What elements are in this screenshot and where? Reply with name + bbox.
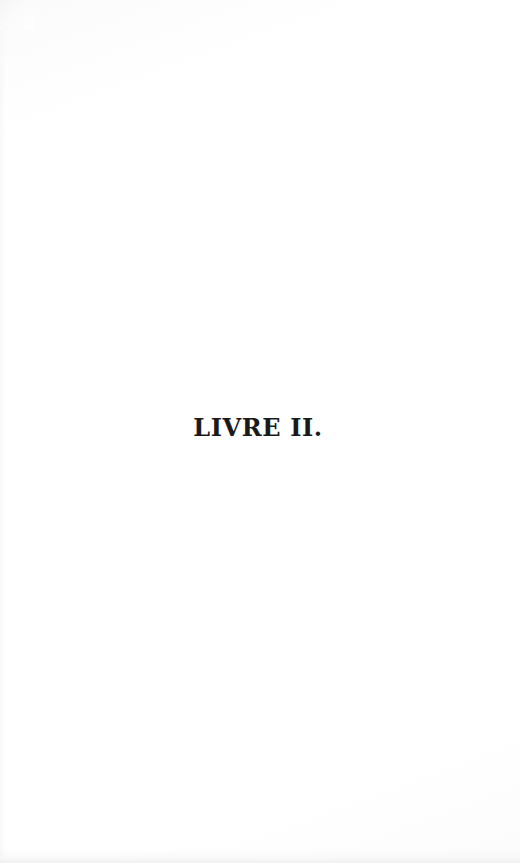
- scan-artifact-top-left-smudge: [0, 0, 34, 30]
- scanned-page: LIVREII.: [0, 0, 520, 863]
- division-title: LIVREII.: [193, 419, 323, 436]
- division-title-part-number: II.: [290, 413, 323, 442]
- division-title-block: LIVREII.: [0, 419, 520, 439]
- division-title-part-label: LIVRE: [193, 413, 281, 442]
- scan-artifact-bottom-edge: [0, 849, 520, 863]
